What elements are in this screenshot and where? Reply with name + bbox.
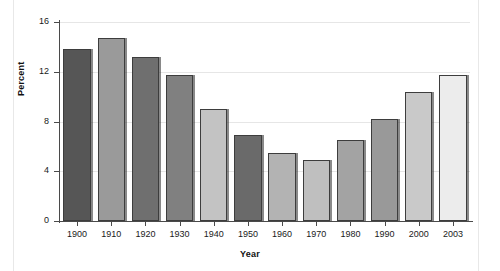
x-tick-label: 1960 xyxy=(265,230,299,239)
x-tick-mark xyxy=(419,221,420,226)
x-tick-mark xyxy=(282,221,283,226)
x-tick-label: 1970 xyxy=(299,230,333,239)
figure-frame-right-rule xyxy=(478,0,479,271)
y-tick-label: 12 xyxy=(29,67,49,76)
x-tick-mark xyxy=(77,221,78,226)
x-axis-line xyxy=(55,221,473,222)
x-tick-mark xyxy=(350,221,351,226)
bar xyxy=(439,75,466,221)
bar xyxy=(303,160,330,221)
y-tick-label: 8 xyxy=(29,117,49,126)
x-tick-mark xyxy=(145,221,146,226)
bar xyxy=(268,153,295,221)
bar xyxy=(200,109,227,221)
bar xyxy=(63,49,90,221)
x-tick-mark xyxy=(248,221,249,226)
figure-frame-left-rule xyxy=(13,0,14,271)
x-tick-label: 1940 xyxy=(197,230,231,239)
y-tick-label: 4 xyxy=(29,166,49,175)
x-tick-label: 1910 xyxy=(94,230,128,239)
x-tick-label: 1920 xyxy=(128,230,162,239)
bar-chart-figure: 0481216 19001910192019301940195019601970… xyxy=(0,0,500,271)
x-tick-mark xyxy=(385,221,386,226)
bar xyxy=(234,135,261,221)
bar xyxy=(337,140,364,221)
x-tick-label: 1930 xyxy=(163,230,197,239)
x-tick-label: 1980 xyxy=(333,230,367,239)
x-tick-mark xyxy=(214,221,215,226)
x-tick-label: 1990 xyxy=(368,230,402,239)
x-axis-title: Year xyxy=(0,249,500,259)
y-axis-title: Percent xyxy=(16,62,26,96)
x-tick-label: 2000 xyxy=(402,230,436,239)
plot-area xyxy=(60,22,470,221)
y-tick-label: 0 xyxy=(29,216,49,225)
y-tick-label: 16 xyxy=(29,17,49,26)
bar xyxy=(405,92,432,221)
x-tick-mark xyxy=(453,221,454,226)
x-tick-label: 2003 xyxy=(436,230,470,239)
x-tick-mark xyxy=(111,221,112,226)
x-tick-label: 1950 xyxy=(231,230,265,239)
bar xyxy=(98,38,125,221)
bar xyxy=(132,57,159,221)
x-tick-mark xyxy=(180,221,181,226)
bar xyxy=(371,119,398,221)
x-tick-mark xyxy=(316,221,317,226)
bar xyxy=(166,75,193,221)
y-axis-title-text: Percent xyxy=(16,62,26,96)
x-tick-label: 1900 xyxy=(60,230,94,239)
